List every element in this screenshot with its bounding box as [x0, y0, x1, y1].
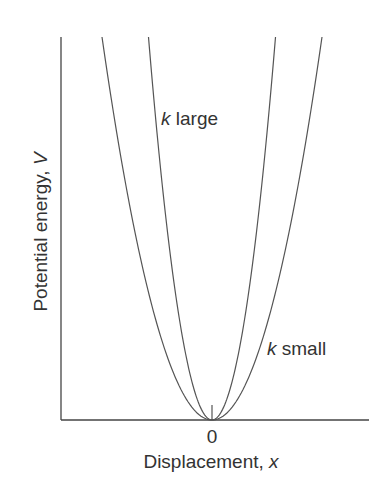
k-small-label: k small — [267, 338, 326, 359]
x-tick-label-zero: 0 — [207, 426, 218, 447]
potential-energy-diagram: k large k small 0 Displacement, x Potent… — [0, 0, 383, 499]
x-axis-label: Displacement, x — [143, 451, 280, 472]
curve-k-large — [148, 37, 275, 420]
k-large-label: k large — [161, 108, 218, 129]
y-axis-label: Potential energy, V — [30, 150, 51, 311]
curve-k-small — [102, 37, 322, 420]
